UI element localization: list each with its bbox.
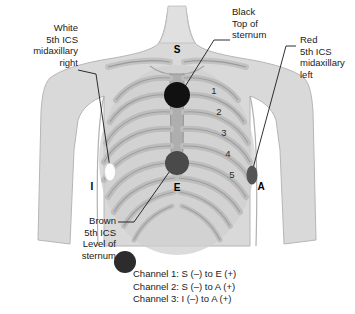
- marker-letter-i: I: [86, 181, 98, 192]
- label-white-line-3: midaxillary: [33, 45, 78, 56]
- label-red-electrode: Red 5th ICS midaxillary left: [300, 34, 355, 80]
- electrode-black-sternum-top: [164, 82, 190, 108]
- label-black-line-2: Top of: [232, 18, 258, 29]
- label-white-line-4: right: [60, 57, 78, 68]
- label-white-line-2: 5th ICS: [46, 34, 78, 45]
- ecg-electrode-placement-figure: White 5th ICS midaxillary right Black To…: [0, 0, 355, 314]
- rib-number-4: 4: [222, 148, 234, 159]
- channel-line-3: Channel 3: I (–) to A (+): [133, 293, 236, 306]
- rib-number-5: 5: [226, 169, 238, 180]
- label-brown-line-2: 5th ICS: [84, 227, 116, 238]
- label-white-electrode: White 5th ICS midaxillary right: [8, 22, 78, 68]
- rib-number-1: 1: [208, 85, 220, 96]
- label-brown-line-1: Brown: [89, 215, 116, 226]
- label-black-line-1: Black: [232, 6, 255, 17]
- label-black-line-3: sternum: [232, 29, 266, 40]
- label-white-line-1: White: [54, 22, 78, 33]
- channel-configuration-list: Channel 1: S (–) to E (+) Channel 2: S (…: [133, 268, 236, 306]
- channel-line-2: Channel 2: S (–) to A (+): [133, 281, 236, 294]
- label-red-line-4: left: [300, 69, 313, 80]
- label-brown-line-3: Level of: [83, 238, 116, 249]
- label-brown-electrode: Brown 5th ICS Level of sternum: [42, 215, 116, 261]
- marker-letter-a: A: [254, 181, 268, 192]
- marker-letter-e: E: [170, 182, 184, 193]
- label-red-line-2: 5th ICS: [300, 46, 332, 57]
- electrode-white-midaxillary-right: [105, 163, 116, 181]
- rib-number-2: 2: [213, 106, 225, 117]
- label-red-line-3: midaxillary: [300, 57, 345, 68]
- rib-number-3: 3: [218, 127, 230, 138]
- label-black-electrode: Black Top of sternum: [232, 6, 302, 41]
- marker-letter-s: S: [170, 44, 184, 55]
- channel-line-1: Channel 1: S (–) to E (+): [133, 268, 236, 281]
- label-brown-line-4: sternum: [82, 250, 116, 261]
- label-red-line-1: Red: [300, 34, 317, 45]
- electrode-brown-sternum-level: [165, 151, 189, 175]
